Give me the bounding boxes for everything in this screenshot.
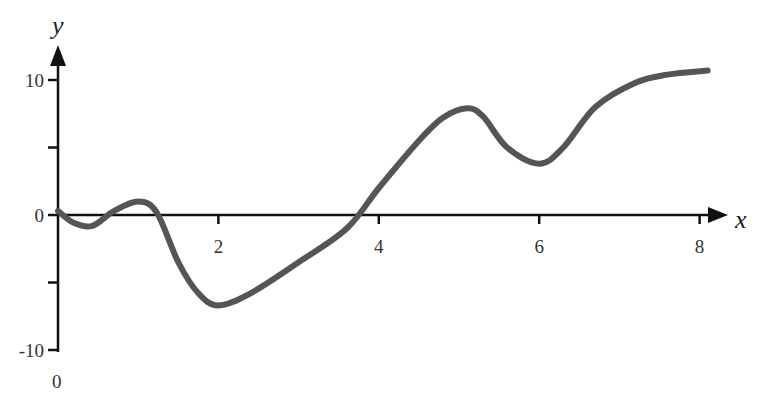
y-axis-title: y	[49, 11, 64, 40]
y-tick-label: -10	[19, 340, 44, 361]
x-tick-label: 4	[374, 236, 384, 257]
y-tick-label: 10	[25, 70, 44, 91]
x-tick-label: 6	[534, 236, 544, 257]
y-tick-label: 0	[35, 205, 45, 226]
data-curve	[58, 71, 708, 306]
x-tick-label: 2	[214, 236, 224, 257]
x-axis-title: x	[734, 205, 747, 234]
line-chart: 2468100-10 y x 0	[0, 0, 765, 403]
x-axis-arrow-icon	[708, 207, 728, 223]
axes	[50, 45, 728, 352]
origin-label: 0	[52, 371, 62, 392]
y-axis-arrow-icon	[50, 45, 66, 66]
x-tick-label: 8	[695, 236, 705, 257]
